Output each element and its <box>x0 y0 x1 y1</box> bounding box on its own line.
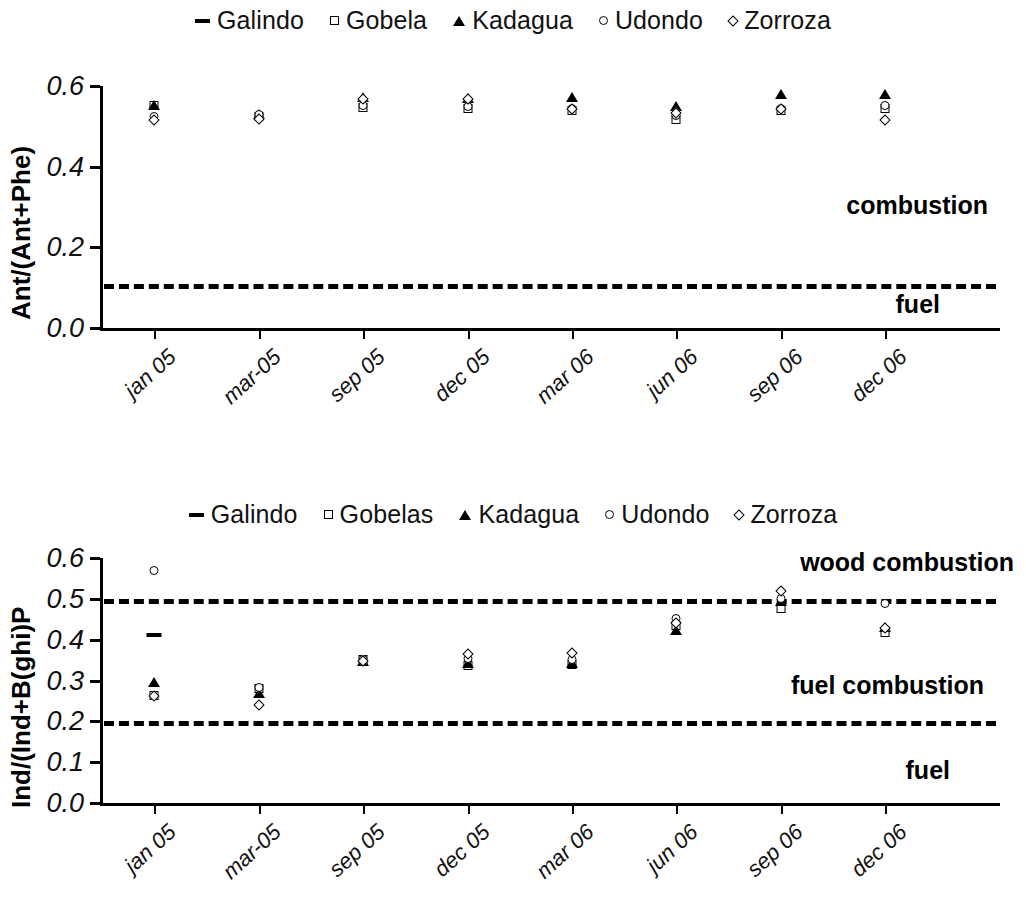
legend-panel-1: GalindoGobelaKadaguaUdondoZorroza <box>0 6 1026 35</box>
square-marker <box>324 510 333 519</box>
y-tick <box>90 598 100 601</box>
x-tick-label: jun 06 <box>590 819 704 906</box>
x-tick <box>676 330 678 339</box>
y-tick <box>90 557 100 560</box>
y-tick <box>90 85 100 88</box>
data-point <box>254 678 263 696</box>
data-point <box>147 623 162 641</box>
legend-panel-2: GalindoGobelasKadaguaUdondoZorroza <box>0 500 1026 529</box>
figure-root: GalindoGobelaKadaguaUdondoZorroza 0.00.2… <box>0 0 1026 906</box>
data-point <box>777 581 785 599</box>
reference-line <box>104 599 996 604</box>
diamond-marker <box>734 509 745 520</box>
dash-marker <box>147 633 162 637</box>
legend-label: Udondo <box>621 500 709 529</box>
dash-marker <box>189 513 204 517</box>
data-point <box>777 99 785 117</box>
diamond-marker <box>149 114 160 125</box>
x-tick <box>572 330 574 339</box>
circle-marker <box>881 599 890 608</box>
legend-item-kadagua[interactable]: Kadagua <box>453 6 573 35</box>
legend-item-udondo[interactable]: Udondo <box>599 6 703 35</box>
data-point <box>672 613 680 631</box>
diamond-marker <box>671 107 682 118</box>
y-tick-label: 0.6 <box>4 71 84 102</box>
diamond-marker <box>775 586 786 597</box>
x-tick <box>572 805 574 814</box>
data-point <box>881 618 889 636</box>
legend-item-udondo[interactable]: Udondo <box>605 500 709 529</box>
x-tick-label: mar-05 <box>172 819 286 906</box>
data-point <box>359 89 367 107</box>
x-tick-label: mar 06 <box>485 819 599 906</box>
x-tick <box>259 805 261 814</box>
data-point <box>672 103 680 121</box>
y-tick-label: 0.6 <box>4 543 84 574</box>
legend-item-galindo[interactable]: Galindo <box>195 6 304 35</box>
diamond-marker <box>357 93 368 104</box>
y-tick <box>90 680 100 683</box>
x-tick-label: mar 06 <box>485 344 599 450</box>
data-point <box>464 89 472 107</box>
x-tick <box>468 330 470 339</box>
data-point <box>568 643 576 661</box>
annotation-label: fuel combustion <box>791 671 984 700</box>
legend-item-kadagua[interactable]: Kadagua <box>459 500 579 529</box>
diamond-marker <box>253 113 264 124</box>
legend-item-zorroza[interactable]: Zorroza <box>729 6 831 35</box>
x-tick-label: mar-05 <box>172 344 286 450</box>
y-tick <box>90 166 100 169</box>
legend-label: Udondo <box>615 6 703 35</box>
reference-line <box>104 284 996 289</box>
x-axis-line <box>100 328 1000 331</box>
y-axis-title-1: Ant/(Ant+Phe) <box>6 146 37 320</box>
x-tick-label: jun 06 <box>590 344 704 450</box>
chart-panel-ant-phe: GalindoGobelaKadaguaUdondoZorroza 0.00.2… <box>0 0 1026 470</box>
reference-line <box>104 721 996 726</box>
x-tick <box>259 330 261 339</box>
y-tick <box>90 761 100 764</box>
x-tick-label: sep 06 <box>694 344 808 450</box>
annotation-label: wood combustion <box>800 548 1014 577</box>
plot-area-1: 0.00.20.40.6jan 05mar-05sep 05dec 05mar … <box>100 86 1000 328</box>
data-point <box>881 110 889 128</box>
data-point <box>464 644 472 662</box>
y-tick <box>90 327 100 330</box>
legend-item-zorroza[interactable]: Zorroza <box>735 500 837 529</box>
x-tick-label: sep 05 <box>276 344 390 450</box>
x-tick <box>781 805 783 814</box>
x-tick <box>363 330 365 339</box>
legend-label: Galindo <box>211 500 298 529</box>
diamond-marker <box>253 699 264 710</box>
x-tick-label: dec 05 <box>381 819 495 906</box>
x-tick <box>885 330 887 339</box>
data-point <box>150 561 159 579</box>
triangle-marker <box>453 16 465 26</box>
x-tick-label: dec 06 <box>799 819 913 906</box>
y-axis-line <box>100 86 103 328</box>
circle-marker <box>150 566 159 575</box>
annotation-label: fuel <box>896 290 940 319</box>
y-tick <box>90 246 100 249</box>
circle-marker <box>605 510 614 519</box>
diamond-marker <box>149 690 160 701</box>
circle-marker <box>254 683 263 692</box>
legend-label: Gobela <box>346 6 427 35</box>
data-point <box>255 695 263 713</box>
x-tick <box>154 330 156 339</box>
data-point <box>568 99 576 117</box>
x-tick <box>885 805 887 814</box>
y-tick <box>90 639 100 642</box>
legend-item-gobela[interactable]: Gobela <box>330 6 427 35</box>
legend-label: Gobelas <box>340 500 434 529</box>
legend-item-galindo[interactable]: Galindo <box>189 500 298 529</box>
data-point <box>150 110 158 128</box>
y-axis-line <box>100 558 103 803</box>
diamond-marker <box>357 655 368 666</box>
data-point <box>255 109 263 127</box>
legend-item-gobelas[interactable]: Gobelas <box>324 500 434 529</box>
diamond-marker <box>462 648 473 659</box>
x-tick-label: dec 06 <box>799 344 913 450</box>
square-marker <box>330 16 339 25</box>
diamond-marker <box>775 104 786 115</box>
